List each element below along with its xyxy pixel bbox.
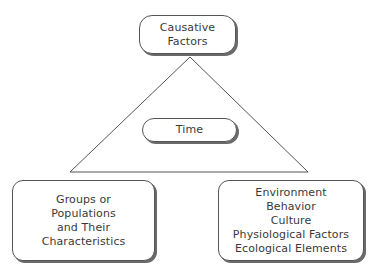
environment-label-line-5: Ecological Elements bbox=[235, 242, 347, 256]
groups-label-line-3: and Their bbox=[57, 221, 110, 235]
environment-factors-box: Environment Behavior Culture Physiologic… bbox=[218, 180, 364, 261]
environment-label-line-2: Behavior bbox=[266, 200, 316, 214]
environment-label-line-3: Culture bbox=[271, 214, 312, 228]
time-label: Time bbox=[176, 123, 203, 137]
causative-factors-label-line-1: Causative bbox=[160, 21, 215, 35]
groups-label-line-1: Groups or bbox=[56, 193, 111, 207]
groups-label-line-2: Populations bbox=[51, 207, 116, 221]
epidemiological-triangle-diagram: Causative Factors Time Groups or Populat… bbox=[0, 0, 377, 278]
environment-label-line-1: Environment bbox=[255, 186, 326, 200]
causative-factors-label-line-2: Factors bbox=[167, 35, 207, 49]
groups-populations-box: Groups or Populations and Their Characte… bbox=[12, 180, 155, 261]
causative-factors-box: Causative Factors bbox=[139, 15, 236, 54]
groups-label-line-4: Characteristics bbox=[42, 235, 126, 249]
environment-label-line-4: Physiological Factors bbox=[233, 228, 349, 242]
time-box: Time bbox=[142, 118, 237, 142]
